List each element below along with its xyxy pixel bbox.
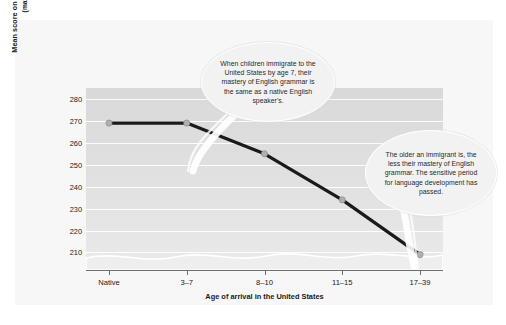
y-axis-title-sub: (max score = 276) bbox=[20, 0, 30, 72]
y-axis-title-main: Mean score on test of English grammar bbox=[10, 0, 19, 53]
callout-bubble-2: The older an immigrant is, the less thei… bbox=[365, 130, 497, 216]
x-axis-title: Age of arrival in the United States bbox=[86, 292, 443, 301]
callout-2-text: The older an immigrant is, the less thei… bbox=[366, 150, 496, 196]
x-axis-tick bbox=[109, 270, 110, 275]
x-axis-tick-label: 3–7 bbox=[157, 278, 217, 287]
y-axis-tick-label: 220 bbox=[42, 226, 82, 235]
y-axis-tick-label: 240 bbox=[42, 182, 82, 191]
figure-card: Mean score on test of English grammar (m… bbox=[15, 20, 493, 305]
x-axis-tick-label: 8–10 bbox=[235, 278, 295, 287]
y-axis-tick-label: 230 bbox=[42, 204, 82, 213]
y-axis-title: Mean score on test of English grammar (m… bbox=[10, 0, 29, 72]
y-axis-tick-label: 260 bbox=[42, 138, 82, 147]
y-axis-tick-label: 250 bbox=[42, 160, 82, 169]
y-axis-tick-label: 280 bbox=[42, 94, 82, 103]
y-axis-tick-label: 210 bbox=[42, 248, 82, 257]
x-axis-tick-label: Native bbox=[79, 278, 139, 287]
x-axis-tick-label: 17–39 bbox=[390, 278, 450, 287]
x-axis-tick bbox=[187, 270, 188, 275]
data-point-marker bbox=[106, 120, 112, 126]
x-axis-tick bbox=[265, 270, 266, 275]
callout-1-text: When children immigrate to the United St… bbox=[202, 59, 334, 105]
callout-bubble-1: When children immigrate to the United St… bbox=[201, 42, 335, 122]
y-axis-tick-labels: 280270260250240230220210 bbox=[37, 88, 82, 270]
y-axis-tick-label: 270 bbox=[42, 116, 82, 125]
x-axis-tick-label: 11–15 bbox=[312, 278, 372, 287]
